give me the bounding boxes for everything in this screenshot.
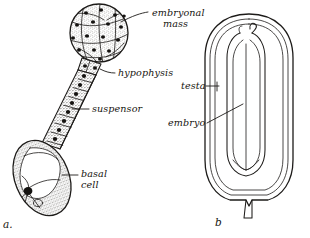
testa-inner — [215, 24, 283, 190]
embryonal-mass-group — [70, 3, 128, 63]
cotyledon-tip — [239, 26, 242, 33]
label-embryonal-mass-line1: embryonal — [152, 7, 205, 18]
figure-root: embryonal mass hypophysis suspensor basa… — [0, 0, 310, 238]
label-basal-cell-line1: basal — [81, 168, 107, 179]
label-testa: testa — [181, 80, 206, 91]
leader-hypophysis — [100, 69, 115, 73]
label-embryonal-mass-line2: mass — [163, 18, 188, 29]
embryo-group — [227, 23, 265, 176]
basal-cell-group — [2, 132, 81, 225]
suspensor-group — [42, 70, 96, 149]
label-hypophysis: hypophysis — [118, 67, 173, 78]
botanical-figure: embryonal mass hypophysis suspensor basa… — [0, 0, 310, 238]
embryo-inner-body — [233, 40, 260, 170]
plumule-hook-icon — [250, 23, 257, 33]
leader-embryo — [207, 104, 243, 123]
label-embryo: embryo — [168, 117, 205, 128]
seed-group — [205, 14, 293, 218]
label-suspensor: suspensor — [92, 103, 144, 114]
caption-panel-a: a. — [3, 218, 13, 230]
label-basal-cell-line2: cell — [81, 179, 99, 190]
caption-panel-b: b — [215, 216, 222, 228]
